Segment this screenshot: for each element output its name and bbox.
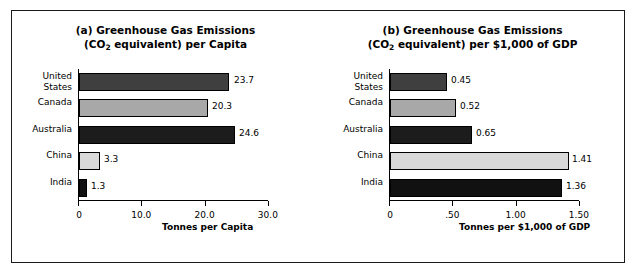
bar-row: China 3.3 (78, 148, 268, 174)
bar-value-b-1: 0.52 (460, 101, 480, 111)
category-label-b-1-line1: Canada (349, 97, 383, 107)
category-label-a-2-line1: Australia (32, 124, 72, 134)
category-label-a-4: India (12, 177, 72, 188)
plot-area-a: 0 10.0 20.0 30.0 United States 23.7 Cana… (78, 69, 268, 201)
category-label-b-3-line1: China (357, 150, 383, 160)
bar-row: Canada 0.52 (389, 95, 579, 121)
x-tick-label-a-1: 10.0 (131, 210, 151, 220)
x-tick-b-1 (452, 201, 453, 206)
chart-panel-a: (a) Greenhouse Gas Emissions (CO2 equiva… (12, 11, 319, 262)
category-label-b-2-line1: Australia (343, 124, 383, 134)
category-label-b-0: United States (323, 71, 383, 92)
x-tick-b-0 (389, 201, 390, 206)
x-tick-label-a-2: 20.0 (195, 210, 215, 220)
x-tick-label-b-2: 1.00 (506, 210, 526, 220)
x-axis-title-a: Tonnes per Capita (162, 222, 253, 232)
bar-a-canada (79, 99, 208, 117)
x-tick-b-3 (579, 201, 580, 206)
category-label-a-3: China (12, 150, 72, 161)
category-label-a-3-line1: China (46, 150, 72, 160)
bar-value-b-3: 1.41 (572, 154, 592, 164)
bar-row: Australia 24.6 (78, 122, 268, 148)
category-label-a-1: Canada (12, 97, 72, 108)
x-tick-b-2 (516, 201, 517, 206)
x-tick-a-3 (268, 201, 269, 206)
chart-panel-b: (b) Greenhouse Gas Emissions (CO2 equiva… (319, 11, 626, 262)
bar-value-a-2: 24.6 (239, 128, 259, 138)
x-tick-a-2 (205, 201, 206, 206)
category-label-a-0: United States (12, 71, 72, 92)
panel-a-title-line2-pre: (CO (84, 38, 105, 50)
bar-a-china (79, 152, 100, 170)
bar-value-b-0: 0.45 (451, 75, 471, 85)
panel-b-title-line2-post: equivalent) per $1,000 of GDP (394, 38, 577, 50)
category-label-b-4: India (323, 177, 383, 188)
bar-value-b-4: 1.36 (566, 181, 586, 191)
category-label-b-2: Australia (323, 124, 383, 135)
panel-b-title-line1: (b) Greenhouse Gas Emissions (383, 24, 563, 36)
bar-row: China 1.41 (389, 148, 579, 174)
category-label-b-4-line1: India (361, 177, 383, 187)
bar-value-a-0: 23.7 (234, 75, 254, 85)
category-label-a-0-line1: United (42, 71, 72, 81)
bar-value-b-2: 0.65 (476, 128, 496, 138)
panel-a-title-line1: (a) Greenhouse Gas Emissions (76, 24, 255, 36)
panel-a-title-line2-post: equivalent) per Capita (111, 38, 247, 50)
category-label-b-1: Canada (323, 97, 383, 108)
x-axis-title-b: Tonnes per $1,000 of GDP (459, 222, 590, 232)
bar-row: Canada 20.3 (78, 95, 268, 121)
x-tick-label-a-0: 0 (76, 210, 82, 220)
bar-b-australia (390, 126, 472, 144)
bar-row: India 1.3 (78, 175, 268, 201)
x-tick-a-1 (141, 201, 142, 206)
bar-value-a-1: 20.3 (212, 101, 232, 111)
category-label-a-4-line1: India (50, 177, 72, 187)
panel-b-title-line2-pre: (CO (368, 38, 389, 50)
x-tick-a-0 (78, 201, 79, 206)
bar-b-india (390, 179, 562, 197)
x-tick-label-a-3: 30.0 (258, 210, 278, 220)
category-label-a-2: Australia (12, 124, 72, 135)
bar-row: India 1.36 (389, 175, 579, 201)
bar-b-canada (390, 99, 456, 117)
bar-value-a-3: 3.3 (104, 154, 118, 164)
category-label-b-0-line1: United (353, 71, 383, 81)
x-tick-label-b-3: 1.50 (569, 210, 589, 220)
x-tick-label-b-0: 0 (387, 210, 393, 220)
bar-row: United States 0.45 (389, 69, 579, 95)
bar-a-australia (79, 126, 235, 144)
category-label-a-1-line1: Canada (38, 97, 72, 107)
panel-a-title: (a) Greenhouse Gas Emissions (CO2 equiva… (12, 23, 319, 55)
category-label-b-3: China (323, 150, 383, 161)
category-label-a-0-line2: States (43, 82, 72, 92)
bar-value-a-4: 1.3 (91, 181, 105, 191)
panel-b-title: (b) Greenhouse Gas Emissions (CO2 equiva… (319, 23, 626, 55)
figure-container: (a) Greenhouse Gas Emissions (CO2 equiva… (11, 10, 625, 263)
bar-a-india (79, 179, 87, 197)
bar-b-united-states (390, 73, 447, 91)
category-label-b-0-line2: States (354, 82, 383, 92)
x-tick-label-b-1: .50 (445, 210, 459, 220)
bar-b-china (390, 152, 569, 170)
bar-row: United States 23.7 (78, 69, 268, 95)
plot-area-b: 0 .50 1.00 1.50 United States 0.45 Canad… (389, 69, 579, 201)
bar-a-united-states (79, 73, 229, 91)
bar-row: Australia 0.65 (389, 122, 579, 148)
